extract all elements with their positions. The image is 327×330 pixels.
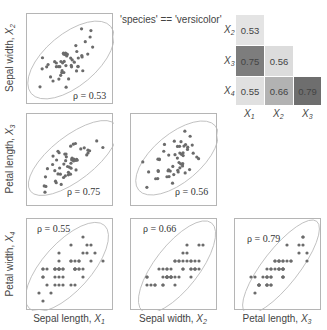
heatmap-row-label-x4: X4 bbox=[224, 85, 235, 97]
heatmap-col-label-x1: X1 bbox=[244, 108, 255, 120]
y-axis-label-petal-length: Petal length, X3 bbox=[4, 109, 16, 209]
chart-title: 'species' == 'versicolor' bbox=[120, 14, 222, 25]
heatmap-cell-x2-x1: 0.53 bbox=[236, 15, 264, 45]
heatmap-cell-x3-x1: 0.75 bbox=[236, 46, 264, 76]
scatter-panel-x1-x4: ρ = 0.55 bbox=[26, 218, 113, 310]
scatter-panel-x1-x3: ρ = 0.75 bbox=[26, 113, 113, 206]
x-axis-label-sepal-width: Sepal width, X2 bbox=[123, 313, 223, 325]
x-axis-label-petal-length: Petal length, X3 bbox=[227, 313, 327, 325]
scatter-panel-x2-x3: ρ = 0.56 bbox=[130, 113, 217, 206]
heatmap-row-label-x3: X3 bbox=[224, 55, 235, 67]
heatmap-cell-x4-x1: 0.55 bbox=[236, 77, 264, 105]
rho-label-x2-x3: ρ = 0.56 bbox=[175, 186, 208, 197]
y-axis-label-sepal-width: Sepal width, X2 bbox=[4, 8, 16, 108]
rho-label-x1-x4: ρ = 0.55 bbox=[37, 223, 70, 234]
scatter-panel-x2-x4: ρ = 0.66 bbox=[130, 218, 217, 310]
scatter-panel-x3-x4: ρ = 0.79 bbox=[234, 218, 321, 310]
heatmap-cell-x4-x3: 0.79 bbox=[294, 77, 321, 105]
rho-label-x1-x3: ρ = 0.75 bbox=[67, 186, 100, 197]
rho-label-x3-x4: ρ = 0.79 bbox=[247, 233, 280, 244]
y-axis-label-petal-width: Petal width, X4 bbox=[4, 214, 16, 314]
heatmap-cell-x4-x2: 0.66 bbox=[265, 77, 293, 105]
scatter-panel-x1-x2: ρ = 0.53 bbox=[26, 13, 113, 104]
heatmap-cell-x3-x2: 0.56 bbox=[265, 46, 293, 76]
heatmap-col-label-x3: X3 bbox=[302, 108, 313, 120]
x-axis-label-sepal-length: Sepal length, X1 bbox=[19, 313, 119, 325]
heatmap-row-label-x2: X2 bbox=[224, 24, 235, 36]
rho-label-x1-x2: ρ = 0.53 bbox=[73, 90, 106, 101]
heatmap-col-label-x2: X2 bbox=[273, 108, 284, 120]
rho-label-x2-x4: ρ = 0.66 bbox=[143, 223, 176, 234]
